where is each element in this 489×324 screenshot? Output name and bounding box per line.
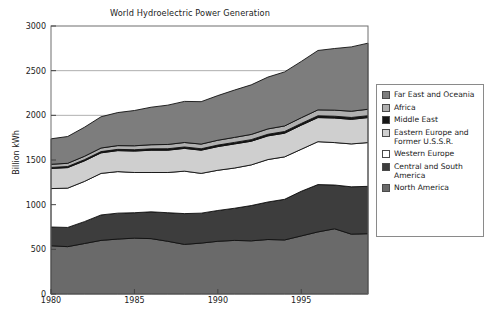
x-tick-label: 1995 [291,296,311,305]
legend-item[interactable]: Africa [382,103,479,112]
legend-item[interactable]: Eastern Europe and Former U.S.S.R. [382,128,479,146]
legend-swatch-icon [382,184,390,192]
legend-swatch-icon [382,104,390,112]
legend-item-label: Central and South America [394,162,479,180]
legend-item[interactable]: Western Europe [382,149,479,158]
legend-swatch-icon [382,163,390,171]
legend-item[interactable]: Middle East [382,115,479,124]
chart-legend: Far East and OceaniaAfricaMiddle EastEas… [376,84,484,237]
legend-item-label: Eastern Europe and Former U.S.S.R. [394,128,479,146]
x-tick-label: 1980 [41,296,61,305]
legend-item[interactable]: Far East and Oceania [382,90,479,99]
legend-swatch-icon [382,91,390,99]
x-tick-label: 1985 [124,296,144,305]
legend-item-label: North America [394,183,449,192]
legend-item-label: Western Europe [394,149,454,158]
legend-item-label: Far East and Oceania [394,90,474,99]
legend-swatch-icon [382,150,390,158]
legend-item-label: Africa [394,103,416,112]
x-tick-label: 1990 [208,296,228,305]
legend-item[interactable]: North America [382,183,479,192]
legend-item-label: Middle East [394,115,438,124]
legend-item[interactable]: Central and South America [382,162,479,180]
figure-container: World Hydroelectric Power Generation Bil… [0,0,489,324]
legend-swatch-icon [382,129,390,137]
legend-swatch-icon [382,116,390,124]
